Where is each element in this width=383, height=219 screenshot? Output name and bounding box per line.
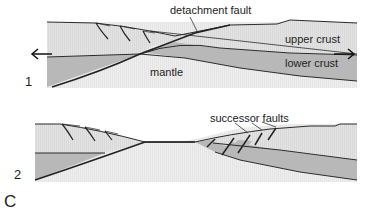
panel-2-number: 2	[14, 168, 21, 181]
panel-1	[32, 17, 357, 88]
panel-1-number: 1	[25, 75, 32, 88]
detachment-fault-label: detachment fault	[170, 5, 251, 16]
successor-faults-label: successor faults	[210, 113, 289, 124]
mantle-label: mantle	[150, 67, 183, 78]
panel-letter: C	[4, 193, 16, 210]
upper-crust-label: upper crust	[285, 34, 340, 45]
lower-crust-label: lower crust	[285, 58, 338, 69]
panel-2	[35, 110, 357, 182]
